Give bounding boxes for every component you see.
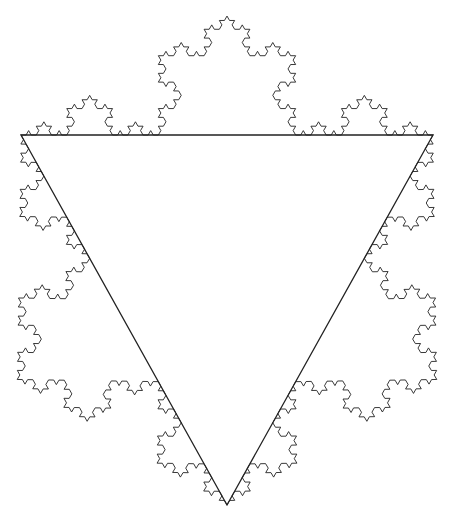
background <box>0 0 451 523</box>
koch-snowflake-figure <box>0 0 451 523</box>
fractal-svg <box>0 0 451 523</box>
